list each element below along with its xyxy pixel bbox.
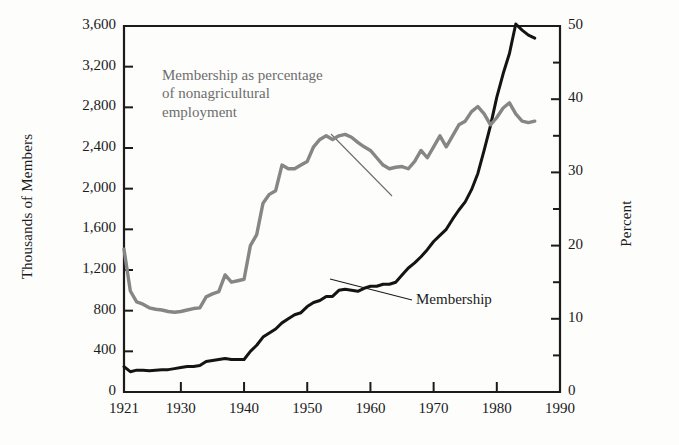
data-series xyxy=(124,24,535,372)
x-axis-tick-label: 1921 xyxy=(94,400,154,417)
plot-frame xyxy=(124,26,560,392)
y-axis-left-tick-label: 2,000 xyxy=(54,179,116,196)
x-axis-tick-label: 1970 xyxy=(404,400,464,417)
y-axis-right-tick-label: 30 xyxy=(568,162,608,179)
x-axis-tick-label: 1960 xyxy=(340,400,400,417)
y-axis-left-tick-label: 1,200 xyxy=(54,260,116,277)
y-axis-left-tick-label: 1,600 xyxy=(54,219,116,236)
y-axis-right-tick-label: 10 xyxy=(568,309,608,326)
x-axis-tick-label: 1930 xyxy=(151,400,211,417)
axis-ticks xyxy=(124,26,560,392)
x-axis-tick-label: 1940 xyxy=(214,400,274,417)
y-axis-left-tick-label: 0 xyxy=(54,382,116,399)
y-axis-left-tick-label: 2,800 xyxy=(54,97,116,114)
annotation-leader-lines xyxy=(330,134,412,300)
y-axis-right-tick-label: 50 xyxy=(568,16,608,33)
y-axis-left-tick-label: 3,600 xyxy=(54,16,116,33)
y-axis-left-tick-label: 3,200 xyxy=(54,57,116,74)
y-axis-left-tick-label: 2,400 xyxy=(54,138,116,155)
y-axis-right-tick-label: 40 xyxy=(568,89,608,106)
y-axis-right-tick-label: 20 xyxy=(568,236,608,253)
y-axis-left-tick-label: 800 xyxy=(54,301,116,318)
x-axis-tick-label: 1980 xyxy=(467,400,527,417)
y-axis-left-tick-label: 400 xyxy=(54,341,116,358)
union-membership-chart: Thousands of Members Percent Membership … xyxy=(0,0,679,445)
y-axis-right-tick-label: 0 xyxy=(568,382,608,399)
x-axis-tick-label: 1950 xyxy=(277,400,337,417)
x-axis-tick-label: 1990 xyxy=(530,400,590,417)
